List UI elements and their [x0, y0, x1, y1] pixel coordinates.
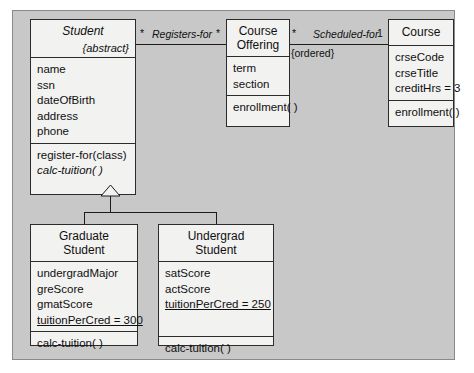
attribute-item: dateOfBirth	[37, 94, 95, 106]
student-name-compartment: Student {abstract}	[31, 20, 135, 57]
course-offering-name-compartment: Course Offering	[227, 20, 289, 56]
attribute-item: gmatScore	[37, 298, 93, 310]
course-name-compartment: Course	[389, 20, 453, 45]
undergrad-student-class-name-line1: Undergrad	[159, 225, 273, 243]
operation-item-abstract: calc-tuition( )	[37, 164, 103, 176]
association-label-registers-for: Registers-for	[152, 28, 212, 40]
attribute-item: name	[37, 63, 66, 75]
student-class-name: Student	[31, 20, 135, 42]
generalization-stem	[110, 195, 111, 212]
class-box-course-offering[interactable]: Course Offering term section enrollment(…	[226, 19, 290, 127]
operation-item: enrollment( )	[395, 106, 460, 118]
multiplicity-offering-scheduled: *	[292, 27, 296, 39]
uml-diagram-canvas: * Registers-for * * Scheduled-for 1 {ord…	[0, 0, 474, 373]
generalization-branch-graduate	[84, 212, 85, 224]
class-box-student[interactable]: Student {abstract} name ssn dateOfBirth …	[30, 19, 136, 195]
attribute-item: term	[233, 62, 256, 74]
course-offering-attributes-compartment: term section	[227, 56, 289, 95]
class-box-graduate-student[interactable]: Graduate Student undergradMajor greScore…	[30, 224, 138, 346]
course-class-name: Course	[389, 20, 453, 45]
association-label-scheduled-for: Scheduled-for	[313, 28, 378, 40]
attribute-item: ssn	[37, 79, 55, 91]
attribute-item: creditHrs = 3	[395, 82, 461, 94]
course-offering-class-name-line1: Course	[227, 20, 289, 38]
operation-item: calc-tuition( )	[165, 342, 231, 354]
course-offering-operations-compartment: enrollment( )	[227, 95, 289, 119]
generalization-tree-bar	[84, 212, 216, 213]
class-box-undergrad-student[interactable]: Undergrad Student satScore actScore tuit…	[158, 224, 274, 346]
undergrad-student-attributes-compartment: satScore actScore tuitionPerCred = 250	[159, 261, 273, 336]
attribute-item: crseCode	[395, 51, 444, 63]
operation-item: calc-tuition( )	[37, 337, 103, 349]
graduate-student-attributes-compartment: undergradMajor greScore gmatScore tuitio…	[31, 261, 137, 331]
attribute-item-static: tuitionPerCred = 300	[37, 313, 143, 328]
attribute-item: undergradMajor	[37, 267, 118, 279]
attribute-item: address	[37, 110, 78, 122]
operation-item: register-for(class)	[37, 149, 126, 161]
association-line-scheduled-for	[290, 44, 388, 45]
graduate-student-operations-compartment: calc-tuition( )	[31, 331, 137, 355]
attributes-spacer	[165, 312, 267, 332]
multiplicity-student-registers: *	[140, 27, 144, 39]
graduate-student-class-name-line2: Student	[31, 243, 137, 261]
multiplicity-offering-registers: *	[216, 27, 220, 39]
attribute-item: phone	[37, 125, 69, 137]
course-operations-compartment: enrollment( )	[389, 100, 453, 124]
undergrad-student-class-name-line2: Student	[159, 243, 273, 261]
graduate-student-name-compartment: Graduate Student	[31, 225, 137, 261]
class-box-course[interactable]: Course crseCode crseTitle creditHrs = 3 …	[388, 19, 454, 127]
graduate-student-class-name-line1: Graduate	[31, 225, 137, 243]
course-attributes-compartment: crseCode crseTitle creditHrs = 3	[389, 45, 453, 100]
attribute-item-static: tuitionPerCred = 250	[165, 297, 271, 312]
undergrad-student-name-compartment: Undergrad Student	[159, 225, 273, 261]
student-operations-compartment: register-for(class) calc-tuition( )	[31, 143, 135, 182]
attribute-item: crseTitle	[395, 67, 438, 79]
operation-item: enrollment( )	[233, 101, 298, 113]
course-offering-class-name-line2: Offering	[227, 38, 289, 56]
constraint-ordered: {ordered}	[291, 47, 334, 59]
attribute-item: satScore	[165, 267, 210, 279]
undergrad-student-operations-compartment: calc-tuition( )	[159, 336, 273, 360]
association-line-registers-for	[136, 44, 226, 45]
generalization-branch-undergrad	[216, 212, 217, 224]
attribute-item: greScore	[37, 283, 84, 295]
attribute-item: actScore	[165, 283, 210, 295]
multiplicity-course-scheduled: 1	[377, 27, 383, 39]
student-attributes-compartment: name ssn dateOfBirth address phone	[31, 57, 135, 143]
student-abstract-stereotype: {abstract}	[31, 42, 135, 57]
attribute-item: section	[233, 78, 269, 90]
